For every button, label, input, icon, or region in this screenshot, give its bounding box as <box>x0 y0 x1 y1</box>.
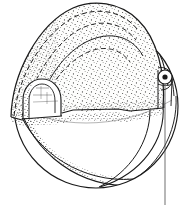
arch-opening <box>22 79 62 119</box>
technical-drawing-svg: Cutaway sphere with stippled dome cap <box>0 0 189 205</box>
figure-root: Cutaway sphere with stippled dome cap <box>0 0 189 205</box>
